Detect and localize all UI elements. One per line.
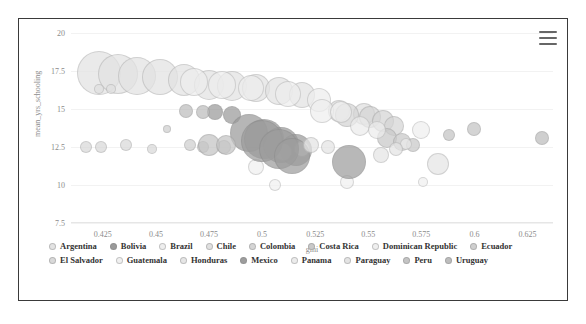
bubble-point[interactable] <box>368 121 386 139</box>
bubble-point[interactable] <box>207 104 223 120</box>
gridline <box>71 223 553 224</box>
legend-item[interactable]: Paraguay <box>344 255 390 266</box>
legend-item-label: Colombia <box>260 241 295 252</box>
chart-card: mean_yrs_schooling 7.51012.51517.520 0.4… <box>18 18 568 301</box>
legend-color-dot <box>291 257 298 264</box>
legend-item-label: Costa Rica <box>319 241 358 252</box>
y-axis-tick-label: 12.5 <box>51 143 65 152</box>
legend-item-label: Uruguay <box>456 255 488 266</box>
legend-item[interactable]: Dominican Republic <box>372 241 457 252</box>
legend-item-label: El Salvador <box>60 255 103 266</box>
bubble-point[interactable] <box>180 68 208 96</box>
legend-item-label: Dominican Republic <box>383 241 457 252</box>
legend-item-label: Guatemala <box>127 255 167 266</box>
y-axis-label: mean_yrs_schooling <box>33 71 42 137</box>
legend-color-dot <box>308 243 315 250</box>
bubble-point[interactable] <box>80 141 92 153</box>
y-axis-tick-label: 15 <box>57 105 65 114</box>
bubble-point[interactable] <box>106 84 116 94</box>
legend-item[interactable]: El Salvador <box>49 255 103 266</box>
legend-item[interactable]: Colombia <box>249 241 295 252</box>
legend: ArgentinaBoliviaBrazilChileColombiaCosta… <box>49 241 553 269</box>
bubble-point[interactable] <box>120 139 132 151</box>
legend-item[interactable]: Costa Rica <box>308 241 358 252</box>
legend-item[interactable]: Chile <box>206 241 236 252</box>
bubble-point[interactable] <box>216 135 236 155</box>
bubble-point[interactable] <box>330 101 352 123</box>
legend-color-dot <box>49 257 56 264</box>
legend-item[interactable]: Ecuador <box>470 241 512 252</box>
bubble-point[interactable] <box>467 122 481 136</box>
bubble-point[interactable] <box>321 140 335 154</box>
legend-item[interactable]: Bolivia <box>110 241 147 252</box>
y-axis-tick-label: 20 <box>57 29 65 38</box>
legend-color-dot <box>206 243 213 250</box>
legend-item-label: Panama <box>302 255 332 266</box>
bubble-point[interactable] <box>147 144 157 154</box>
x-axis-tick-label: 0.525 <box>306 230 324 239</box>
legend-item-label: Mexico <box>251 255 277 266</box>
legend-item[interactable]: Honduras <box>180 255 227 266</box>
bubble-point[interactable] <box>332 145 366 179</box>
bubble-point[interactable] <box>350 116 370 136</box>
y-axis-tick-label: 17.5 <box>51 67 65 76</box>
bubble-point[interactable] <box>389 142 403 156</box>
y-axis-tick-label: 10 <box>57 181 65 190</box>
x-axis-tick-label: 0.625 <box>519 230 537 239</box>
x-axis-tick-label: 0.6 <box>469 230 479 239</box>
bubble-point[interactable] <box>303 137 319 153</box>
legend-item[interactable]: Peru <box>403 255 431 266</box>
bubble-point[interactable] <box>95 141 107 153</box>
legend-color-dot <box>344 257 351 264</box>
x-axis-tick-label: 0.575 <box>412 230 430 239</box>
x-axis-line <box>71 222 553 223</box>
bubble-point[interactable] <box>94 84 104 94</box>
legend-item[interactable]: Uruguay <box>445 255 488 266</box>
bubble-point[interactable] <box>238 75 264 101</box>
legend-item[interactable]: Argentina <box>49 241 97 252</box>
legend-item[interactable]: Mexico <box>240 255 277 266</box>
legend-color-dot <box>445 257 452 264</box>
x-axis-tick-label: 0.425 <box>94 230 112 239</box>
legend-color-dot <box>110 243 117 250</box>
bubble-point[interactable] <box>535 131 549 145</box>
legend-item-label: Paraguay <box>355 255 390 266</box>
bubble-point[interactable] <box>208 71 236 99</box>
bubble-point[interactable] <box>275 81 301 107</box>
legend-item-label: Peru <box>414 255 431 266</box>
legend-color-dot <box>403 257 410 264</box>
legend-item-label: Chile <box>217 241 236 252</box>
legend-color-dot <box>159 243 166 250</box>
x-axis-tick-label: 0.5 <box>257 230 267 239</box>
legend-item-label: Brazil <box>170 241 192 252</box>
bubble-point[interactable] <box>196 105 210 119</box>
x-axis-tick-label: 0.55 <box>361 230 375 239</box>
gridline <box>71 33 553 34</box>
bubble-point[interactable] <box>269 179 281 191</box>
legend-item[interactable]: Panama <box>291 255 332 266</box>
bubble-point[interactable] <box>427 153 449 175</box>
bubble-point[interactable] <box>184 139 196 151</box>
bubble-point[interactable] <box>373 147 389 163</box>
legend-item-label: Argentina <box>60 241 97 252</box>
bubble-point[interactable] <box>418 177 428 187</box>
bubble-point[interactable] <box>163 125 171 133</box>
x-axis-tick-label: 0.475 <box>200 230 218 239</box>
x-axis-tick-label: 0.45 <box>149 230 163 239</box>
gridline <box>71 185 553 186</box>
legend-item[interactable]: Guatemala <box>116 255 167 266</box>
bubble-point[interactable] <box>412 121 430 139</box>
legend-color-dot <box>116 257 123 264</box>
bubble-point[interactable] <box>443 129 455 141</box>
legend-item[interactable]: Brazil <box>159 241 192 252</box>
bubble-point[interactable] <box>179 104 193 118</box>
legend-color-dot <box>49 243 56 250</box>
legend-color-dot <box>372 243 379 250</box>
legend-color-dot <box>470 243 477 250</box>
legend-item-label: Ecuador <box>481 241 512 252</box>
legend-item-label: Honduras <box>191 255 227 266</box>
y-axis-tick-label: 7.5 <box>55 219 65 228</box>
legend-color-dot <box>180 257 187 264</box>
plot-area: 7.51012.51517.520 0.4250.450.4750.50.525… <box>71 33 553 223</box>
legend-color-dot <box>240 257 247 264</box>
